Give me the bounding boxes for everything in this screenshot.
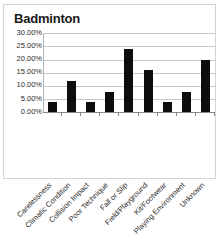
x-tick bbox=[80, 113, 81, 116]
chart-container: Badminton 30.00% 25.00% 20.00% 15.00% 10… bbox=[3, 4, 216, 179]
bar[interactable] bbox=[201, 60, 210, 113]
x-tick bbox=[118, 113, 119, 116]
y-tick-label: 20.00% bbox=[4, 55, 42, 63]
bar-slot bbox=[196, 33, 215, 113]
y-tick-label: 0.00% bbox=[4, 108, 42, 116]
bar[interactable] bbox=[144, 70, 153, 113]
x-tick bbox=[176, 113, 177, 116]
bar-slot bbox=[139, 33, 158, 113]
x-tick bbox=[99, 113, 100, 116]
y-tick-label: 15.00% bbox=[4, 68, 42, 76]
y-tick-label: 25.00% bbox=[4, 42, 42, 50]
bar[interactable] bbox=[124, 49, 133, 113]
bar-slot bbox=[158, 33, 177, 113]
bar-slot bbox=[119, 33, 138, 113]
x-tick bbox=[61, 113, 62, 116]
plot-wrapper: 30.00% 25.00% 20.00% 15.00% 10.00% 5.00%… bbox=[4, 33, 217, 119]
x-tick bbox=[157, 113, 158, 116]
y-tick-label: 30.00% bbox=[4, 29, 42, 37]
chart-title: Badminton bbox=[14, 11, 80, 26]
x-axis-line bbox=[43, 112, 215, 113]
x-tick bbox=[138, 113, 139, 116]
bar[interactable] bbox=[105, 92, 114, 113]
bar[interactable] bbox=[67, 81, 76, 113]
bar-slot bbox=[100, 33, 119, 113]
x-tick-label: Carelessness bbox=[15, 181, 53, 187]
bar-slot bbox=[62, 33, 81, 113]
x-tick bbox=[214, 113, 215, 116]
bar-series bbox=[43, 33, 215, 113]
y-axis: 30.00% 25.00% 20.00% 15.00% 10.00% 5.00%… bbox=[4, 33, 42, 113]
bar-slot bbox=[177, 33, 196, 113]
x-tick bbox=[195, 113, 196, 116]
bar[interactable] bbox=[182, 92, 191, 113]
y-tick-label: 10.00% bbox=[4, 81, 42, 89]
plot-area bbox=[43, 33, 215, 113]
y-tick-label: 5.00% bbox=[4, 95, 42, 103]
bar-slot bbox=[43, 33, 62, 113]
x-axis: Carelessness Climatic Condition Collisio… bbox=[43, 117, 215, 187]
bar-slot bbox=[81, 33, 100, 113]
